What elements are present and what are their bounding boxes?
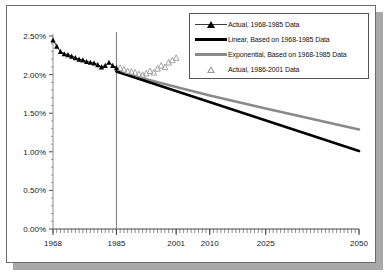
y-axis-ticks bbox=[49, 36, 53, 229]
legend-key-line-filled-triangle-icon bbox=[194, 18, 228, 32]
series-actual-1968-1985 bbox=[50, 37, 119, 70]
x-tick-label: 2025 bbox=[257, 239, 275, 248]
data-point-marker bbox=[58, 49, 63, 54]
y-tick-label: 0.50% bbox=[23, 186, 46, 195]
y-tick-label: 1.50% bbox=[23, 109, 46, 118]
data-point-marker bbox=[54, 43, 59, 48]
data-point-marker bbox=[173, 55, 179, 61]
figure-frame: 0.00%0.50%1.00%1.50%2.00%2.50% 196819852… bbox=[6, 5, 376, 263]
legend-label-linear: Linear, Based on 1968-1985 Data bbox=[228, 35, 330, 44]
x-tick-label: 2010 bbox=[201, 239, 219, 248]
x-axis-tick-labels: 196819852001201020252050 bbox=[44, 239, 368, 248]
y-tick-label: 2.00% bbox=[23, 71, 46, 80]
legend-label-actual-1968-1985: Actual, 1968-1985 Data bbox=[228, 20, 299, 29]
chart-legend: Actual, 1968-1985 Data Linear, Based on … bbox=[189, 13, 369, 79]
x-axis-minor-ticks bbox=[53, 229, 359, 233]
legend-key-gray-bar-icon bbox=[194, 48, 228, 62]
legend-item-actual-1968-1985: Actual, 1968-1985 Data bbox=[190, 17, 368, 32]
y-tick-label: 2.50% bbox=[23, 32, 46, 41]
data-point-marker bbox=[50, 37, 55, 42]
legend-item-linear: Linear, Based on 1968-1985 Data bbox=[190, 32, 368, 47]
legend-key-open-triangle-icon bbox=[194, 63, 228, 77]
legend-label-actual-1986-2001: Actual, 1986-2001 Data bbox=[228, 65, 299, 74]
series-linear-projection bbox=[116, 72, 359, 152]
x-tick-label: 1968 bbox=[44, 239, 62, 248]
legend-item-exponential: Exponential, Based on 1968-1985 Data bbox=[190, 47, 368, 62]
y-tick-label: 1.00% bbox=[23, 148, 46, 157]
x-tick-label: 2050 bbox=[350, 239, 368, 248]
exponential-projection-line bbox=[116, 72, 359, 130]
linear-projection-line bbox=[116, 72, 359, 152]
y-axis-tick-labels: 0.00%0.50%1.00%1.50%2.00%2.50% bbox=[23, 32, 46, 234]
legend-key-black-bar-icon bbox=[194, 33, 228, 47]
chart-figure: 0.00%0.50%1.00%1.50%2.00%2.50% 196819852… bbox=[0, 0, 389, 276]
x-tick-label: 1985 bbox=[108, 239, 126, 248]
legend-item-actual-1986-2001: Actual, 1986-2001 Data bbox=[190, 62, 368, 77]
series-exponential-projection bbox=[116, 72, 359, 130]
legend-label-exponential: Exponential, Based on 1968-1985 Data bbox=[228, 50, 347, 59]
x-tick-label: 2001 bbox=[167, 239, 185, 248]
data-point-marker bbox=[106, 60, 111, 65]
y-tick-label: 0.00% bbox=[23, 225, 46, 234]
